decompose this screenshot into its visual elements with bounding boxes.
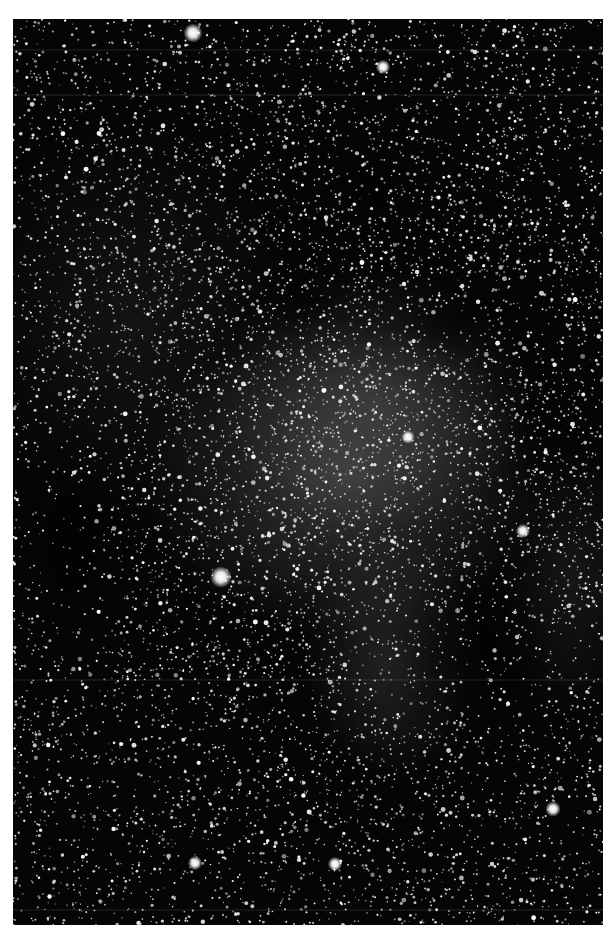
star-field-canvas xyxy=(13,19,603,925)
astronomical-photo xyxy=(13,19,603,925)
